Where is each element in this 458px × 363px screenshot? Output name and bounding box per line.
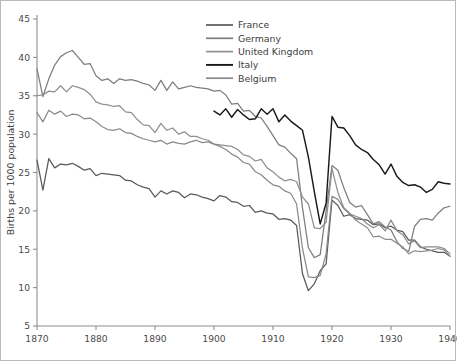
y-axis-title-text: Births per 1000 population [5, 110, 16, 236]
y-axis-title: Births per 1000 population [5, 110, 16, 236]
series-line-belgium [37, 110, 450, 277]
legend-label-germany: Germany [238, 33, 282, 44]
x-tick-label: 1870 [25, 333, 49, 344]
x-tick-label: 1880 [84, 333, 108, 344]
legend-label-belgium: Belgium [238, 73, 276, 84]
y-tick-label: 15 [18, 244, 30, 255]
y-tick-label: 30 [18, 129, 30, 140]
y-tick-label: 20 [18, 205, 30, 216]
y-tick-label: 25 [18, 167, 30, 178]
legend-label-united-kingdom: United Kingdom [238, 46, 313, 57]
y-tick-label: 5 [24, 320, 30, 331]
x-tick-label: 1920 [320, 333, 344, 344]
series-lines [37, 50, 450, 290]
y-tick-label: 45 [18, 13, 30, 24]
chart-legend: FranceGermanyUnited KingdomItalyBelgium [206, 19, 313, 83]
x-tick-label: 1940 [438, 333, 457, 344]
chart-figure: 5101520253035404518701880189019001910192… [0, 0, 456, 361]
plot-area: 5101520253035404518701880189019001910192… [5, 13, 457, 343]
x-tick-label: 1930 [379, 333, 403, 344]
x-tick-label: 1890 [143, 333, 167, 344]
legend-label-france: France [238, 19, 269, 30]
y-tick-label: 10 [18, 282, 30, 293]
x-tick-label: 1910 [261, 333, 285, 344]
y-tick-label: 35 [18, 90, 30, 101]
legend-label-italy: Italy [238, 59, 259, 70]
line-chart: 5101520253035404518701880189019001910192… [1, 1, 457, 362]
x-tick-label: 1900 [202, 333, 226, 344]
y-tick-label: 40 [18, 52, 30, 63]
